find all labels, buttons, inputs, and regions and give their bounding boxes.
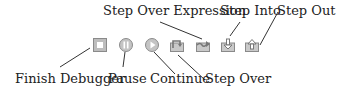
label-continue: Continue	[150, 72, 210, 85]
step-over-icon[interactable]	[170, 38, 184, 52]
debugger-toolbar-diagram: Step Over Expression Step Into Step Out …	[0, 0, 340, 92]
leader-pause	[123, 52, 125, 67]
label-step-over: Step Over	[205, 72, 271, 85]
step-over-expression-icon[interactable]	[196, 38, 210, 52]
leader-step-over-expr	[160, 22, 202, 39]
pause-icon[interactable]	[119, 38, 133, 52]
stop-icon[interactable]	[93, 38, 107, 52]
leader-step-into	[230, 22, 240, 36]
step-out-icon[interactable]	[245, 38, 259, 52]
leader-finish	[60, 48, 90, 67]
label-step-into: Step Into	[220, 4, 281, 17]
play-icon[interactable]	[145, 38, 159, 52]
step-into-icon[interactable]	[221, 38, 235, 52]
label-step-out: Step Out	[277, 4, 336, 17]
label-pause: Pause	[108, 72, 147, 85]
